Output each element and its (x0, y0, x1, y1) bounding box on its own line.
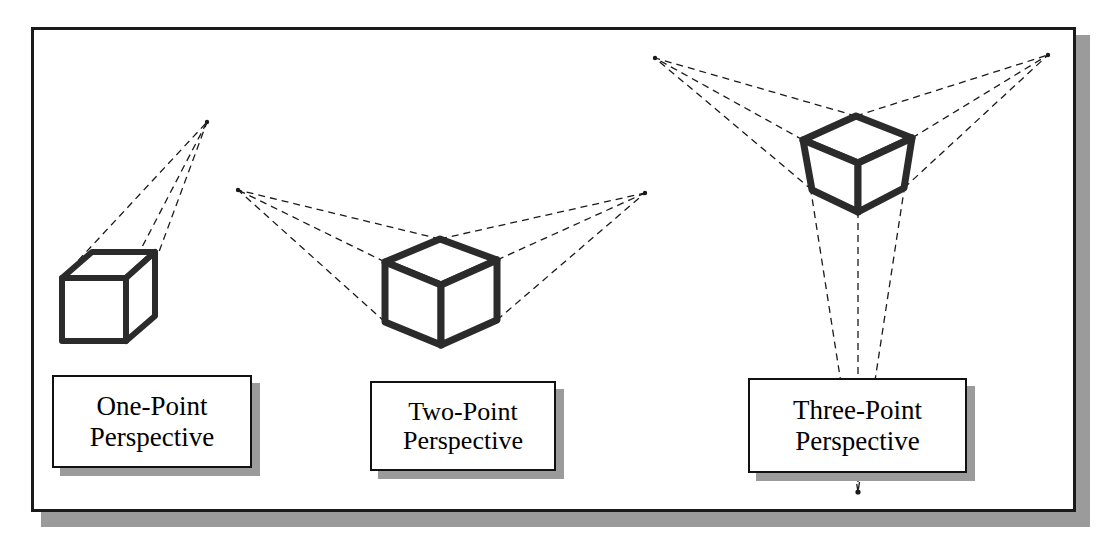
figure-page: One-Point Perspective Two-Point Perspect… (0, 0, 1108, 560)
one-point-label-line2: Perspective (90, 422, 214, 452)
ghost-caption-text (120, 0, 880, 8)
three-point-label-box: Three-Point Perspective (748, 378, 967, 473)
two-point-label-line2: Perspective (403, 426, 523, 455)
two-point-label-box: Two-Point Perspective (370, 381, 556, 471)
one-point-label-box: One-Point Perspective (52, 375, 252, 468)
one-point-label-line1: One-Point (97, 391, 208, 421)
three-point-label-line1: Three-Point (793, 395, 922, 425)
two-point-label-line1: Two-Point (408, 397, 517, 426)
three-point-label-line2: Perspective (795, 426, 919, 456)
